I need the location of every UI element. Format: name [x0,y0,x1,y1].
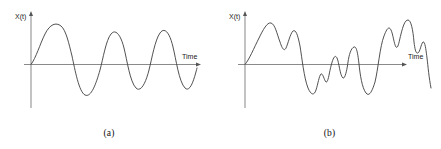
panel-a: (a) X(t) Time [0,0,218,149]
waveform-periodic [31,24,197,95]
y-axis-arrow-icon [29,11,33,16]
waveform-random [245,20,431,94]
panel-b: (b) X(t) Time [218,0,441,149]
signal-comparison-figure: (a) X(t) Time (b) X(t) Time [0,0,441,149]
y-axis-arrow-icon [243,11,247,16]
panel-b-caption: (b) [218,128,441,138]
panel-a-plot [0,0,218,126]
panel-b-plot [218,0,441,126]
panel-a-caption: (a) [0,128,218,138]
x-axis-arrow-icon [196,63,201,67]
x-axis-arrow-icon [402,63,407,67]
